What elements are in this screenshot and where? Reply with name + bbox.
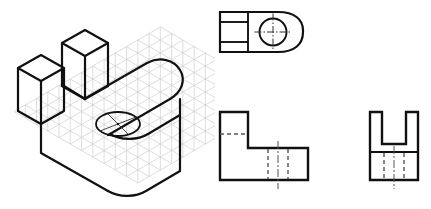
base-bottom-front-edge [108,171,180,196]
grid-line [48,92,172,164]
front-view-panel [215,104,335,196]
base-front-right-link2 [148,115,180,134]
front-view-outline [220,112,308,180]
isometric-view-svg [0,0,215,209]
top-view-svg [215,0,335,80]
grid-line [82,73,206,145]
hole-center-dot [117,123,119,125]
isometric-grid [14,27,215,183]
side-view-svg [360,104,430,196]
grid-line [59,86,183,158]
front-view-svg [215,104,335,196]
grid-line [25,34,171,119]
top-view-panel [215,0,335,80]
grid-line [25,105,149,177]
top-view-hole-group [255,14,292,51]
grid-line [160,27,215,99]
grid-line [93,73,215,158]
prong-a-top-face [18,55,64,81]
side-view-panel [360,104,430,196]
prong-b-top-face [62,30,108,56]
drawing-sheet [0,0,431,209]
grid-line [37,99,161,171]
isometric-view-panel [0,0,215,209]
grid-line [37,40,183,125]
prong-a-bottom-left [18,111,41,124]
